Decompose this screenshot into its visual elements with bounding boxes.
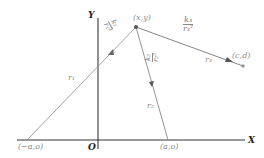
force-diagram xyxy=(0,0,264,158)
origin-label: O xyxy=(88,143,96,152)
point-xy-label: (x,y) xyxy=(133,14,151,22)
force-k3-label: k₃ r₃² xyxy=(183,16,193,33)
point-right-label: (a,o) xyxy=(160,143,178,151)
y-axis-label: Y xyxy=(88,11,94,20)
point-c-d xyxy=(241,64,245,68)
segment-r1 xyxy=(27,27,136,140)
point-left-label: (−a,o) xyxy=(18,143,43,151)
r1-label: r₁ xyxy=(68,74,75,82)
arrow-r2-icon xyxy=(149,81,154,87)
r3-label: r₃ xyxy=(205,56,212,64)
force-k2-label: k₂ r₂² xyxy=(145,53,160,62)
r2-label: r₂ xyxy=(147,102,154,110)
force-k2-denominator: r₂² xyxy=(153,53,160,62)
x-axis-label: X xyxy=(248,136,255,145)
force-k3-denominator: r₃² xyxy=(183,25,193,33)
point-c-d-label: (c,d) xyxy=(232,52,250,60)
arrow-r1-icon xyxy=(108,49,114,55)
point-xy xyxy=(134,25,138,29)
